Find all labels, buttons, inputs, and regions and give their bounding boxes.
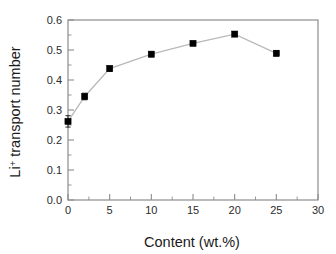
x-axis-title: Content (wt.%)	[144, 234, 240, 250]
x-tick-label: 0	[65, 204, 71, 216]
svg-text:Li+ transport number: Li+ transport number	[7, 46, 23, 177]
data-point-marker	[65, 118, 71, 124]
chart-background	[0, 0, 336, 254]
data-point-marker	[82, 93, 88, 99]
chart-svg: 051015202530 0.00.10.20.30.40.50.6 Conte…	[0, 0, 336, 254]
y-tick-label: 0.0	[47, 194, 62, 206]
x-tick-label: 15	[187, 204, 199, 216]
data-point-marker	[273, 50, 279, 56]
y-tick-label: 0.2	[47, 134, 62, 146]
y-tick-label: 0.3	[47, 104, 62, 116]
y-axis-title-base: Li	[7, 166, 23, 177]
y-tick-label: 0.4	[47, 74, 62, 86]
y-axis-title-rest: transport number	[7, 46, 23, 161]
x-tick-label: 5	[107, 204, 113, 216]
x-tick-label: 30	[312, 204, 324, 216]
data-point-marker	[232, 31, 238, 37]
x-tick-label: 25	[270, 204, 282, 216]
y-tick-label: 0.6	[47, 14, 62, 26]
y-tick-label: 0.5	[47, 44, 62, 56]
data-point-marker	[148, 51, 154, 57]
x-tick-label: 10	[145, 204, 157, 216]
y-tick-label: 0.1	[47, 164, 62, 176]
data-point-marker	[107, 66, 113, 72]
y-axis-title: Li+ transport number	[7, 46, 23, 177]
chart-figure: 051015202530 0.00.10.20.30.40.50.6 Conte…	[0, 0, 336, 254]
data-point-marker	[190, 40, 196, 46]
x-tick-label: 20	[229, 204, 241, 216]
